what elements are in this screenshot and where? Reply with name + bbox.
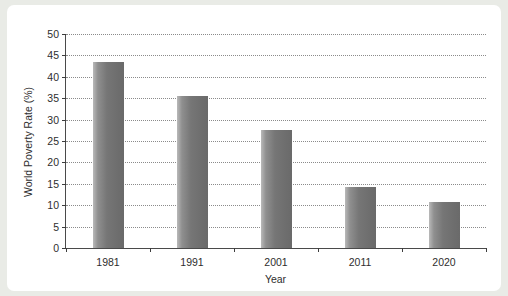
x-tick-label: 2001: [264, 256, 287, 268]
y-tick-mark: [62, 98, 66, 99]
y-tick-mark: [62, 34, 66, 35]
bar: [345, 187, 376, 248]
y-tick-label: 15: [47, 178, 59, 190]
x-tick-label: 2020: [432, 256, 455, 268]
plot-area: 05101520253035404550 1981199120012011202…: [65, 34, 486, 249]
x-tick-mark: [66, 248, 67, 252]
y-tick-label: 30: [47, 114, 59, 126]
x-tick-label: 1991: [180, 256, 203, 268]
y-tick-mark: [62, 184, 66, 185]
chart-figure: World Poverty Rate (%) 05101520253035404…: [7, 5, 501, 291]
x-axis-title: Year: [65, 273, 486, 285]
y-tick-label: 0: [53, 242, 59, 254]
x-tick-mark: [486, 248, 487, 252]
x-tick-mark: [234, 248, 235, 252]
y-tick-label: 50: [47, 28, 59, 40]
bar: [177, 96, 208, 248]
bar: [429, 202, 460, 248]
y-tick-label: 40: [47, 71, 59, 83]
y-tick-label: 45: [47, 49, 59, 61]
y-tick-mark: [62, 120, 66, 121]
y-tick-mark: [62, 227, 66, 228]
x-tick-label: 2011: [349, 256, 372, 268]
y-tick-mark: [62, 77, 66, 78]
y-tick-label: 35: [47, 92, 59, 104]
y-tick-label: 25: [47, 135, 59, 147]
x-tick-mark: [402, 248, 403, 252]
y-tick-label: 20: [47, 156, 59, 168]
y-tick-mark: [62, 141, 66, 142]
y-axis-title-label: World Poverty Rate (%): [22, 86, 34, 196]
x-tick-mark: [150, 248, 151, 252]
bar: [93, 62, 124, 248]
y-axis-title: World Poverty Rate (%): [20, 34, 36, 249]
y-tick-label: 5: [53, 221, 59, 233]
y-tick-mark: [62, 205, 66, 206]
bar: [261, 130, 292, 248]
y-tick-mark: [62, 55, 66, 56]
x-tick-mark: [318, 248, 319, 252]
y-tick-mark: [62, 162, 66, 163]
x-tick-label: 1981: [96, 256, 119, 268]
y-tick-label: 10: [47, 199, 59, 211]
